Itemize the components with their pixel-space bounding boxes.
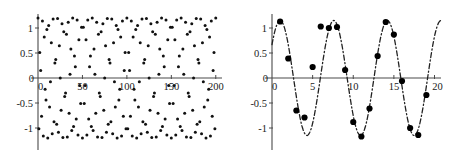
- scatter-point: [154, 33, 157, 36]
- scatter-point: [165, 134, 168, 137]
- scatter-point: [43, 35, 46, 38]
- scatter-point: [134, 28, 137, 31]
- scatter-point: [149, 109, 152, 112]
- scatter-point: [70, 129, 73, 132]
- scatter-point: [99, 95, 102, 98]
- scatter-point: [168, 102, 171, 105]
- data-point: [326, 25, 332, 31]
- scatter-point: [121, 19, 124, 22]
- scatter-point: [109, 120, 112, 123]
- right-y-tick-label: 0.5: [254, 48, 267, 59]
- data-point: [415, 132, 421, 138]
- scatter-point: [102, 109, 105, 112]
- scatter-point: [57, 131, 60, 134]
- scatter-point: [93, 48, 96, 51]
- scatter-point: [183, 112, 186, 115]
- scatter-point: [194, 131, 197, 134]
- scatter-point: [166, 38, 169, 41]
- scatter-point: [136, 24, 139, 27]
- scatter-point: [105, 131, 108, 134]
- data-point: [407, 125, 413, 131]
- scatter-point: [108, 58, 111, 61]
- scatter-point: [87, 118, 90, 121]
- scatter-point: [130, 19, 133, 22]
- scatter-point: [101, 136, 104, 139]
- scatter-point: [109, 62, 112, 65]
- scatter-point: [37, 17, 40, 20]
- scatter-point: [184, 21, 187, 24]
- scatter-point: [149, 22, 152, 25]
- scatter-point: [84, 84, 87, 87]
- scatter-point: [67, 21, 70, 24]
- right-plot-panel: -1-0.500.51 05101520: [227, 0, 454, 161]
- data-point: [310, 64, 316, 70]
- scatter-point: [83, 102, 86, 105]
- scatter-point: [61, 22, 64, 25]
- scatter-point: [38, 51, 41, 54]
- scatter-point: [76, 18, 79, 21]
- scatter-point: [46, 136, 49, 139]
- scatter-point: [201, 41, 204, 44]
- scatter-point: [95, 21, 98, 24]
- scatter-point: [100, 30, 103, 33]
- scatter-point: [181, 48, 184, 51]
- scatter-point: [93, 73, 96, 76]
- scatter-point: [207, 88, 210, 91]
- scatter-point: [150, 136, 153, 139]
- scatter-point: [65, 33, 68, 36]
- scatter-point: [131, 135, 134, 138]
- scatter-point: [135, 136, 138, 139]
- scatter-point: [190, 22, 193, 25]
- scatter-point: [155, 135, 158, 138]
- scatter-point: [153, 91, 156, 94]
- data-point: [366, 105, 372, 111]
- scatter-point: [58, 44, 61, 47]
- data-point: [358, 133, 364, 139]
- scatter-point: [127, 51, 130, 54]
- scatter-point: [103, 77, 106, 80]
- scatter-point: [137, 105, 140, 108]
- scatter-point: [106, 17, 109, 20]
- data-point: [391, 31, 397, 37]
- right-plot-svg: -1-0.500.51 05101520: [227, 0, 454, 161]
- data-point: [383, 19, 389, 25]
- left-x-tick-label: 200: [208, 81, 224, 92]
- data-point: [399, 78, 405, 84]
- right-x-tick-label: 20: [432, 81, 443, 92]
- scatter-point: [200, 132, 203, 135]
- scatter-point: [45, 28, 48, 31]
- scatter-point: [180, 17, 183, 20]
- figure-container: -1-0.500.51 050100150200 -1-0.500.51 051…: [0, 0, 454, 161]
- scatter-point: [133, 99, 136, 102]
- scatter-point: [37, 127, 40, 130]
- scatter-point: [41, 19, 44, 22]
- scatter-point: [114, 105, 117, 108]
- scatter-point: [85, 38, 88, 41]
- data-point: [334, 24, 340, 30]
- scatter-point: [132, 35, 135, 38]
- scatter-point: [125, 17, 128, 20]
- scatter-point: [61, 136, 64, 139]
- scatter-point: [189, 30, 192, 33]
- scatter-point: [210, 19, 213, 22]
- scatter-point: [128, 69, 131, 72]
- scatter-point: [49, 80, 52, 83]
- scatter-point: [112, 41, 115, 44]
- scatter-point: [211, 115, 214, 118]
- scatter-point: [90, 125, 93, 128]
- scatter-point: [148, 77, 151, 80]
- scatter-point: [157, 112, 160, 115]
- scatter-point: [185, 135, 188, 138]
- scatter-point: [60, 109, 63, 112]
- scatter-point: [69, 73, 72, 76]
- scatter-point: [175, 18, 178, 21]
- scatter-point: [50, 41, 53, 44]
- scatter-point: [133, 88, 136, 91]
- scatter-point: [73, 54, 76, 57]
- scatter-point: [205, 28, 208, 31]
- scatter-point: [71, 17, 74, 20]
- scatter-point: [144, 123, 147, 126]
- scatter-point: [204, 24, 207, 27]
- scatter-point: [118, 88, 121, 91]
- scatter-point: [198, 120, 201, 123]
